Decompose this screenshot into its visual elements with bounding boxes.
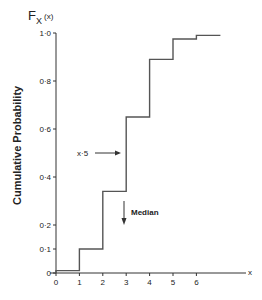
x-tick-label: 0 <box>54 278 59 287</box>
x-tick-label: 3 <box>124 278 129 287</box>
x-tick-label: 6 <box>194 278 199 287</box>
annotation-x5: x·5 <box>77 149 121 158</box>
y-tick-label: 0·4 <box>39 173 51 182</box>
y-tick-label: 0·6 <box>39 125 51 134</box>
x-ticks: 0123456 <box>54 273 199 287</box>
x-tick-label: 4 <box>147 278 152 287</box>
x-axis-label: x <box>248 268 252 277</box>
annotation-median: Median <box>122 201 159 225</box>
y-axis-label: Cumulative Probability <box>11 85 23 205</box>
y-ticks: 00·10·20·40·60·81·0 <box>39 29 56 278</box>
x-tick-label: 1 <box>77 278 82 287</box>
annotation-median-label: Median <box>131 208 159 217</box>
y-tick-label: 0·1 <box>39 245 51 254</box>
arrow-right-head-icon <box>115 151 121 156</box>
annotation-x5-label: x·5 <box>77 149 89 158</box>
cdf-step-chart: FX(x) Cumulative Probability 00·10·20·40… <box>0 0 262 300</box>
y-tick-label: 0 <box>47 269 52 278</box>
x-tick-label: 2 <box>101 278 106 287</box>
y-tick-label: 0·8 <box>39 77 51 86</box>
y-tick-label: 1·0 <box>39 29 51 38</box>
function-label: FX(x) <box>28 8 54 26</box>
arrow-down-head-icon <box>122 218 127 225</box>
y-tick-label: 0·2 <box>39 221 51 230</box>
x-tick-label: 5 <box>171 278 176 287</box>
